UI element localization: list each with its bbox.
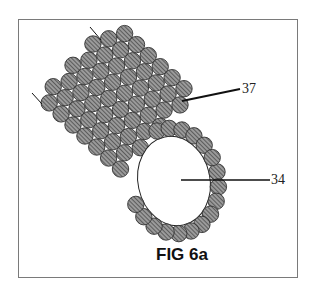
- particle: [176, 81, 192, 97]
- edge-line-left: [32, 93, 42, 104]
- reference-label-34: 34: [271, 173, 285, 187]
- figure-caption: FIG 6a: [156, 246, 208, 263]
- particle: [128, 196, 144, 212]
- particle: [156, 102, 172, 118]
- reference-label-37: 37: [242, 82, 256, 96]
- particle: [116, 145, 132, 161]
- particle: [172, 97, 188, 113]
- particle: [204, 149, 220, 165]
- particle: [210, 179, 226, 195]
- particle: [112, 161, 128, 177]
